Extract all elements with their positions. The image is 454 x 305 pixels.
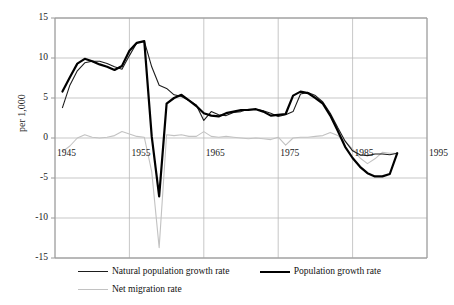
y-axis-tick-neg5: -5 — [22, 172, 48, 182]
legend-row-primary: Natural population growth rate Populatio… — [78, 266, 381, 277]
data-series-group — [62, 41, 397, 247]
chart-container: 151050-5-10-15 194519551965197519851995 … — [0, 0, 454, 305]
y-axis-tick-neg10: -10 — [22, 212, 48, 222]
x-axis-tick-1955: 1955 — [131, 148, 150, 158]
legend-swatch-natural-icon — [78, 271, 108, 272]
y-axis-tick-neg15: -15 — [22, 252, 48, 262]
x-axis-tick-1985: 1985 — [355, 148, 374, 158]
x-axis-tick-1975: 1975 — [280, 148, 299, 158]
legend-item-net-migration-rate: Net migration rate — [78, 285, 182, 295]
legend-item-natural-population-growth-rate: Natural population growth rate — [78, 267, 229, 277]
legend-swatch-migration-icon — [78, 289, 108, 290]
legend-item-population-growth-rate: Population growth rate — [260, 267, 381, 277]
y-axis-title: per 1,000 — [16, 94, 27, 132]
legend-label-natural: Natural population growth rate — [112, 267, 229, 277]
series-line-population-growth-rate — [62, 41, 397, 196]
y-axis-tick-15: 15 — [22, 12, 48, 22]
y-axis-tick-10: 10 — [22, 52, 48, 62]
legend-swatch-population-icon — [260, 271, 290, 273]
legend-row-secondary: Net migration rate — [78, 284, 182, 295]
legend-label-population: Population growth rate — [294, 267, 381, 277]
legend-label-migration: Net migration rate — [112, 285, 182, 295]
y-axis-tick-0: 0 — [22, 132, 48, 142]
x-axis-tick-1995: 1995 — [429, 148, 448, 158]
x-axis-tick-1965: 1965 — [206, 148, 225, 158]
x-axis-tick-1945: 1945 — [57, 148, 76, 158]
